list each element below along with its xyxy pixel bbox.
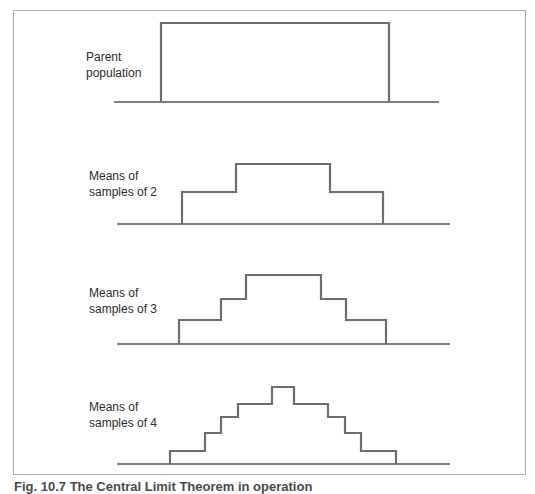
step-distribution-outline (170, 387, 396, 464)
label-line: Means of (89, 285, 157, 301)
label-line: population (86, 65, 141, 81)
label-line: samples of 4 (89, 415, 157, 431)
label-line: samples of 3 (89, 301, 157, 317)
histogram-panel (117, 387, 450, 464)
label-parent-population: Parent population (86, 49, 141, 81)
label-line: Parent (86, 49, 141, 65)
step-distribution-outline (182, 164, 383, 224)
step-distribution-outline (161, 23, 389, 102)
step-distribution-outline (179, 275, 386, 344)
histogram-panel (117, 275, 450, 344)
label-means-of-4: Means of samples of 4 (89, 399, 157, 431)
histogram-panel (114, 23, 439, 102)
label-means-of-2: Means of samples of 2 (89, 168, 157, 200)
label-line: samples of 2 (89, 184, 157, 200)
label-line: Means of (89, 399, 157, 415)
label-means-of-3: Means of samples of 3 (89, 285, 157, 317)
figure-caption: Fig. 10.7 The Central Limit Theorem in o… (14, 479, 312, 494)
label-line: Means of (89, 168, 157, 184)
histogram-panel (117, 164, 450, 224)
